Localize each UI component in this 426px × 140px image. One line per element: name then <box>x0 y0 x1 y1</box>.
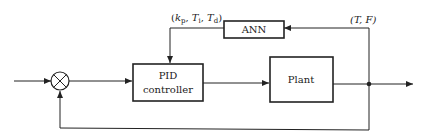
plant-block: Plant <box>270 57 333 102</box>
pid-ann-block-diagram: PID controller Plant ANN (kp, Ti, Td) (T… <box>0 0 426 140</box>
pid-controller-block: PID controller <box>133 64 203 101</box>
pid-label-line2: controller <box>143 84 193 95</box>
outputs-label: (T, F) <box>350 14 376 25</box>
summing-junction <box>51 72 69 90</box>
ann-block: ANN <box>224 21 284 38</box>
ann-label: ANN <box>241 24 267 35</box>
ann-output-path <box>170 28 224 63</box>
pid-parameters-label: (kp, Ti, Td) <box>171 12 222 25</box>
pid-label-line1: PID <box>159 70 178 81</box>
plant-label: Plant <box>288 74 314 85</box>
